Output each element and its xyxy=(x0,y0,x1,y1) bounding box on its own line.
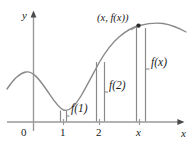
x-axis-arrowhead xyxy=(177,119,184,125)
y-axis-arrowhead xyxy=(31,11,37,18)
y-axis-label: y xyxy=(22,10,27,21)
point-coordinate-label: (x, f(x)) xyxy=(97,13,128,24)
x-tick-label-1: 1 xyxy=(60,127,66,138)
function-value-figure: y x 0 1 2 x f(1) f(2) f(x) (x, f(x)) xyxy=(0,0,193,148)
value-label-f1: f(1) xyxy=(71,103,88,115)
curve-point-marker xyxy=(136,23,140,27)
segment-bracket-fx xyxy=(137,27,150,122)
y-axis xyxy=(31,11,37,132)
x-tick-label-2: 2 xyxy=(96,127,102,138)
origin-label: 0 xyxy=(21,127,27,138)
segment-bracket-f1 xyxy=(61,111,70,122)
x-axis-label: x xyxy=(181,128,186,139)
value-label-f2: f(2) xyxy=(109,80,126,92)
x-tick-label-x: x xyxy=(136,127,141,138)
value-label-fx: f(x) xyxy=(151,57,167,69)
segment-bracket-f2 xyxy=(97,62,109,122)
